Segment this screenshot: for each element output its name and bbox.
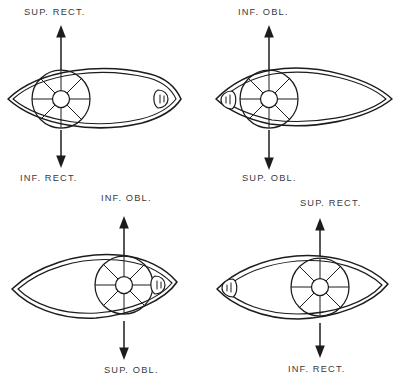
muscle-label-up-bottom-left: INF. OBL. bbox=[101, 194, 152, 203]
iris-bottom-left bbox=[95, 256, 153, 314]
arrow-down-bottom-left bbox=[119, 321, 129, 360]
caruncle-bottom-left bbox=[151, 276, 165, 294]
eye-drawing-bottom-left bbox=[0, 186, 199, 379]
caruncle-top-left bbox=[154, 90, 168, 108]
iris-bottom-right bbox=[291, 258, 349, 316]
iris-top-left bbox=[32, 70, 90, 128]
muscle-label-up-top-left: SUP. RECT. bbox=[24, 8, 85, 17]
iris-top-right bbox=[240, 70, 298, 128]
muscle-label-up-top-right: INF. OBL. bbox=[238, 8, 289, 17]
arrow-down-top-right bbox=[264, 130, 274, 170]
eye-diagram-panel-bottom-right: SUP. RECT. INF. RECT. bbox=[200, 186, 399, 379]
eye-drawing-bottom-right bbox=[200, 186, 399, 379]
eye-diagram-panel-top-left: SUP. RECT. INF. RECT. bbox=[0, 0, 199, 193]
muscle-label-down-top-left: INF. RECT. bbox=[20, 174, 77, 183]
muscle-label-up-bottom-right: SUP. RECT. bbox=[300, 199, 361, 208]
eye-globe-top-right bbox=[216, 68, 392, 126]
muscle-label-down-bottom-left: SUP. OBL. bbox=[104, 366, 159, 375]
eye-drawing-top-right bbox=[200, 0, 399, 193]
eye-muscle-actions-figure: SUP. RECT. INF. RECT. bbox=[0, 0, 399, 386]
muscle-label-down-top-right: SUP. OBL. bbox=[242, 174, 297, 183]
arrow-down-top-left bbox=[56, 130, 66, 168]
arrow-up-bottom-right bbox=[315, 218, 325, 260]
arrow-up-top-right bbox=[264, 25, 274, 70]
eye-diagram-panel-bottom-left: INF. OBL. SUP. OBL. bbox=[0, 186, 199, 379]
eye-diagram-panel-top-right: INF. OBL. SUP. OBL. bbox=[200, 0, 399, 193]
eye-drawing-top-left bbox=[0, 0, 199, 193]
arrow-up-top-left bbox=[56, 25, 66, 70]
muscle-label-down-bottom-right: INF. RECT. bbox=[288, 365, 345, 374]
arrow-up-bottom-left bbox=[119, 216, 129, 260]
arrow-down-bottom-right bbox=[315, 323, 325, 358]
